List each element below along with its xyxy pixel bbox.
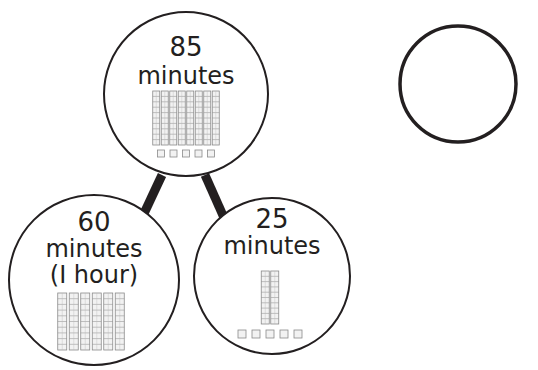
hours-note: (I hour) bbox=[50, 261, 138, 289]
hours-part-circle: 60 minutes (I hour) bbox=[9, 195, 179, 365]
tens-rod bbox=[170, 91, 177, 145]
total-number: 85 bbox=[169, 32, 202, 62]
tens-rod bbox=[187, 91, 194, 145]
bond-connector-right bbox=[205, 175, 225, 220]
tens-rod bbox=[58, 293, 67, 350]
hours-unit: minutes bbox=[45, 235, 142, 263]
tens-rod bbox=[212, 91, 219, 145]
tens-rod bbox=[261, 271, 269, 324]
unit-cube bbox=[208, 150, 215, 157]
tens-rod bbox=[271, 271, 279, 324]
tens-rod bbox=[92, 293, 101, 350]
tens-rod bbox=[204, 91, 211, 145]
unit-cube bbox=[158, 150, 165, 157]
minutes-unit: minutes bbox=[223, 232, 320, 260]
tens-rod bbox=[81, 293, 90, 350]
tens-rod bbox=[178, 91, 185, 145]
clock-face-top bbox=[400, 26, 516, 142]
total-circle: 85 minutes bbox=[104, 12, 268, 176]
number-bond-diagram: 85 minutes 60 minutes (I hour) 25 minute… bbox=[0, 0, 538, 370]
unit-cube bbox=[183, 150, 190, 157]
minutes-part-circle: 25 minutes bbox=[194, 198, 350, 354]
unit-cube bbox=[266, 330, 274, 338]
unit-cube bbox=[252, 330, 260, 338]
unit-cube bbox=[195, 150, 202, 157]
tens-rod bbox=[115, 293, 124, 350]
total-unit: minutes bbox=[137, 62, 234, 90]
unit-cube bbox=[170, 150, 177, 157]
tens-rod bbox=[104, 293, 113, 350]
minutes-number: 25 bbox=[255, 204, 288, 234]
tens-rod bbox=[153, 91, 160, 145]
unit-cube bbox=[294, 330, 302, 338]
unit-cube bbox=[238, 330, 246, 338]
hours-number: 60 bbox=[77, 207, 110, 237]
tens-rod bbox=[69, 293, 78, 350]
tens-rod bbox=[161, 91, 168, 145]
unit-cube bbox=[280, 330, 288, 338]
tens-rod bbox=[195, 91, 202, 145]
